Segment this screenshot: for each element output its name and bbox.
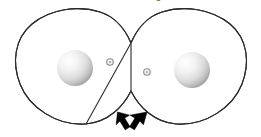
right-center-of-mass-marker	[144, 69, 151, 76]
left-star-sphere	[57, 50, 93, 86]
left-pointer-arrow	[116, 112, 130, 130]
roche-lobe-svg	[0, 0, 261, 137]
right-pointer-arrow	[130, 112, 147, 130]
right-star-sphere	[174, 52, 210, 88]
roche-lobe-outline	[16, 9, 247, 124]
figure-canvas: · · g	[0, 0, 261, 137]
left-center-of-mass-marker	[107, 59, 114, 66]
